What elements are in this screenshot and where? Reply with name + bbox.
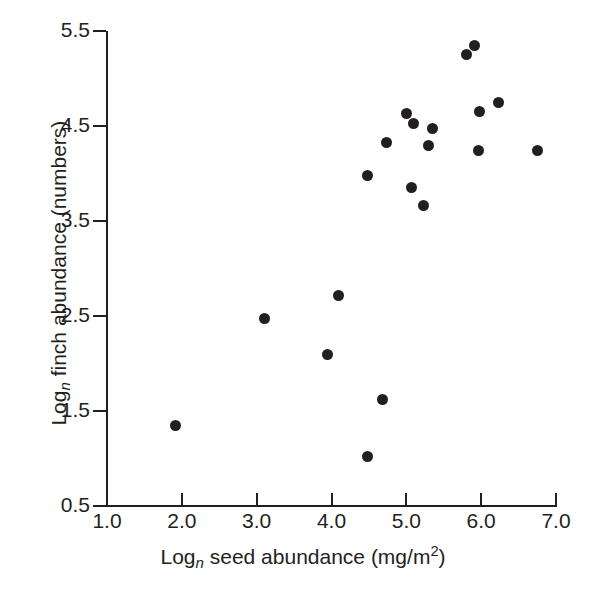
plot-data-area [107, 31, 556, 506]
y-axis-title-rest: finch abundance (numbers) [47, 121, 70, 383]
data-point [469, 40, 480, 51]
x-axis-title-prefix: Log [160, 545, 195, 568]
y-axis-tick-label: 3.5 [0, 208, 90, 232]
y-axis-tick-label: 1.5 [0, 398, 90, 422]
data-point [381, 137, 392, 148]
y-axis-tick-label: 4.5 [0, 113, 90, 137]
y-axis-title: Logn finch abundance (numbers) [47, 13, 73, 533]
x-axis-title-subscript: n [196, 554, 204, 571]
x-axis-tick-label: 2.0 [147, 509, 217, 533]
y-axis-title-subscript: n [56, 382, 73, 390]
x-axis-tick-label: 6.0 [446, 509, 516, 533]
y-axis-title-prefix: Log [47, 391, 70, 426]
data-point [532, 145, 543, 156]
data-point [333, 290, 344, 301]
x-axis-title: Logn seed abundance (mg/m2) [0, 543, 606, 571]
x-axis-tick-label: 3.0 [222, 509, 292, 533]
y-axis-tick-mark [93, 505, 106, 507]
x-axis-tick-label: 7.0 [521, 509, 591, 533]
y-axis-tick-mark [93, 125, 106, 127]
y-axis-tick-mark [93, 220, 106, 222]
y-axis-tick-mark [93, 30, 106, 32]
y-axis-tick-label: 2.5 [0, 303, 90, 327]
y-axis-tick-mark [93, 410, 106, 412]
data-point [362, 451, 373, 462]
x-axis-tick-label: 4.0 [297, 509, 367, 533]
data-point [493, 97, 504, 108]
data-point [401, 108, 412, 119]
x-axis-title-tail: ) [439, 545, 446, 568]
x-axis-tick-label: 5.0 [371, 509, 441, 533]
data-point [322, 349, 333, 360]
data-point [461, 49, 472, 60]
y-axis-tick-mark [93, 315, 106, 317]
y-axis-tick-label: 5.5 [0, 18, 90, 42]
x-axis-title-rest: seed abundance (mg/m [204, 545, 430, 568]
x-axis-title-superscript: 2 [430, 543, 438, 559]
data-point [362, 170, 373, 181]
x-axis-tick-label: 1.0 [72, 509, 142, 533]
scatter-plot-figure: 0.51.52.53.54.55.5 1.02.03.04.05.06.07.0… [0, 0, 606, 602]
data-point [377, 394, 388, 405]
data-point [408, 118, 419, 129]
